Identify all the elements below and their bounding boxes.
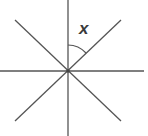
intersecting-lines-diagram: x	[0, 0, 148, 136]
center-point	[66, 69, 70, 73]
angle-label-x: x	[78, 19, 90, 38]
angle-arc	[68, 45, 86, 53]
